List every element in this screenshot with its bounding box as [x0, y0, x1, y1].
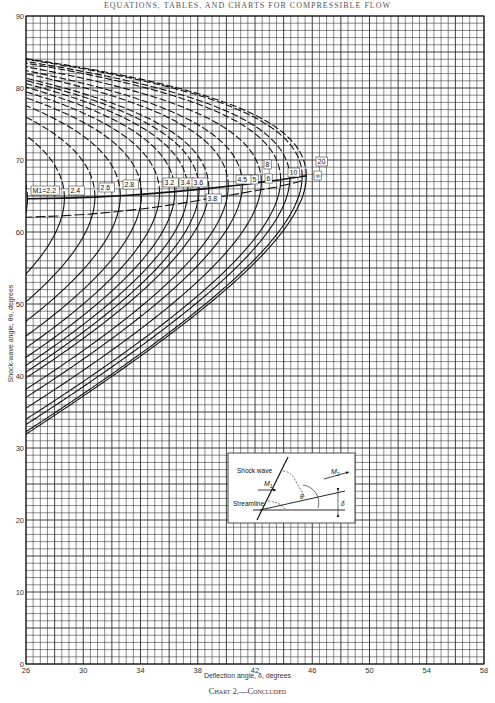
oblique-shock-chart: 2630343842465054580102030405060708090 M1…	[0, 0, 495, 703]
mach-curve-label: 8	[266, 161, 270, 168]
mach-curve-label: 10	[290, 169, 298, 176]
mach-curve-label: ∞	[316, 172, 321, 179]
mach-curve-weak	[0, 190, 188, 547]
mach-curve-label: 5	[253, 176, 257, 183]
y-tick-label: 20	[16, 516, 24, 525]
mach-curve-weak	[0, 199, 28, 470]
mach-curve-label: 2.4	[71, 187, 81, 194]
mach-curve-strong	[0, 17, 188, 190]
inset-streamline-label: Streamline	[233, 500, 264, 507]
axis-ticks: 2630343842465054580102030405060708090	[16, 12, 489, 676]
y-tick-label: 30	[16, 444, 24, 453]
inset-theta-label: θ	[300, 493, 304, 500]
inset-shock-wave-label: Shock wave	[237, 467, 272, 474]
mach-curve-label: 2.6	[101, 184, 111, 191]
y-tick-label: 60	[16, 228, 24, 237]
mach-curve-label: 4.5	[238, 176, 248, 183]
mach-curve-label: 3.2	[165, 179, 175, 186]
chart-grid	[26, 16, 484, 664]
y-tick-label: 10	[16, 588, 24, 597]
mach-curve-label: 6	[267, 175, 271, 182]
inset-diagram: Shock wave Streamline M1 M2 θ δ	[228, 453, 355, 523]
mach-curve-label: 2.8	[125, 181, 135, 188]
mach-curve-weak	[0, 193, 160, 533]
mach-curve-label: 3.8	[208, 195, 218, 202]
mach-curve-strong	[0, 17, 228, 186]
mach-curve-label: 20	[318, 158, 326, 165]
y-tick-label: 90	[16, 12, 24, 21]
mach-curve-label: 3.6	[194, 179, 204, 186]
y-axis-label: Shock-wave angle, θs, degrees	[7, 284, 14, 384]
y-tick-label: 80	[16, 84, 24, 93]
x-axis-label: Deflection angle, δ, degrees	[0, 672, 495, 679]
inset-delta-label: δ	[341, 500, 345, 507]
mach-curve-strong	[0, 17, 28, 199]
chart-caption: Chart 2.—Concluded	[0, 686, 495, 696]
y-tick-label: 50	[16, 300, 24, 309]
y-tick-label: 0	[20, 660, 24, 669]
mach-curve-label: 3.4	[181, 179, 191, 186]
mach-curve-strong	[0, 17, 261, 182]
mach-curve-label: M1=2.2	[33, 187, 57, 194]
mach-curve-strong	[0, 17, 120, 195]
y-tick-label: 40	[16, 372, 24, 381]
y-tick-label: 70	[16, 156, 24, 165]
mach-curve-weak	[0, 186, 228, 571]
